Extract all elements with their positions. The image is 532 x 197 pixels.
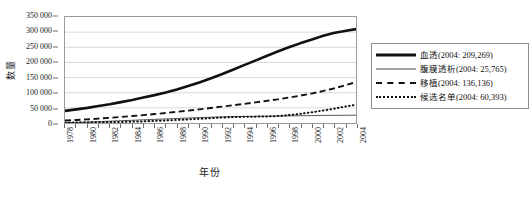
x-tick-mark <box>87 124 88 128</box>
x-tick-mark <box>278 124 279 128</box>
legend-item[interactable]: 血透(2004: 209,269) <box>376 48 523 62</box>
x-tick-label: 1998 <box>292 127 300 143</box>
legend-item-label: 血透(2004: 209,269) <box>420 50 493 60</box>
x-tick-label: 1994 <box>247 127 255 143</box>
x-tick-mark <box>346 124 347 128</box>
x-tick-mark <box>334 124 335 128</box>
series-line <box>65 82 356 120</box>
x-tick-mark <box>143 124 144 128</box>
x-tick-label: 1988 <box>180 127 188 143</box>
y-tick-label: 50 000 <box>30 105 52 113</box>
x-tick-mark <box>357 124 358 128</box>
x-tick-mark <box>267 124 268 128</box>
x-tick-label: 1992 <box>225 127 233 143</box>
x-axis-ticks: 1978198019821984198619881990199219941996… <box>64 124 357 164</box>
x-tick-label: 1982 <box>112 127 120 143</box>
x-axis-title: 年份 <box>0 168 420 178</box>
x-tick-mark <box>98 124 99 128</box>
x-tick-label: 2002 <box>337 127 345 143</box>
series-line <box>65 29 356 111</box>
x-tick-mark <box>323 124 324 128</box>
chart-figure: 数量 350 000300 000250 000200 000150 00010… <box>0 0 532 197</box>
plot-area <box>64 16 357 124</box>
x-tick-label: 1990 <box>202 127 210 143</box>
legend-line-swatch-icon <box>376 78 416 88</box>
legend-item[interactable]: 腹膜透析(2004: 25,765) <box>376 62 523 76</box>
x-tick-mark <box>188 124 189 128</box>
x-tick-mark <box>289 124 290 128</box>
x-tick-label: 1984 <box>135 127 143 143</box>
y-tick-label: 250 000 <box>26 43 52 51</box>
x-tick-label: 1996 <box>270 127 278 143</box>
y-tick-label: 100 000 <box>26 89 52 97</box>
x-tick-mark <box>165 124 166 128</box>
x-tick-mark <box>312 124 313 128</box>
legend-line-swatch-icon <box>376 64 416 74</box>
chart-legend: 血透(2004: 209,269)腹膜透析(2004: 25,765)移植(20… <box>371 43 529 109</box>
y-tick-mark <box>53 16 58 17</box>
legend-line-swatch-icon <box>376 92 416 102</box>
x-tick-mark <box>211 124 212 128</box>
legend-item[interactable]: 候选名单(2004: 60,393) <box>376 90 523 104</box>
legend-item-label: 候选名单(2004: 60,393) <box>420 92 507 102</box>
y-tick-mark <box>53 124 58 125</box>
x-tick-mark <box>244 124 245 128</box>
y-tick-mark <box>53 31 58 32</box>
x-tick-mark <box>75 124 76 128</box>
x-tick-label: 1980 <box>90 127 98 143</box>
legend-item-label: 移植(2004: 136,136) <box>420 78 493 88</box>
x-tick-mark <box>154 124 155 128</box>
y-tick-mark <box>53 77 58 78</box>
x-tick-mark <box>120 124 121 128</box>
y-tick-label: 0 <box>48 120 52 128</box>
x-tick-mark <box>64 124 65 128</box>
x-tick-mark <box>109 124 110 128</box>
y-axis-ticks: 350 000300 000250 000200 000150 000100 0… <box>0 16 58 124</box>
x-tick-mark <box>256 124 257 128</box>
y-tick-mark <box>53 46 58 47</box>
x-tick-label: 1978 <box>67 127 75 143</box>
x-tick-label: 1986 <box>157 127 165 143</box>
y-tick-label: 150 000 <box>26 74 52 82</box>
legend-line-swatch-icon <box>376 50 416 60</box>
y-tick-label: 350 000 <box>26 12 52 20</box>
y-tick-mark <box>53 62 58 63</box>
x-tick-mark <box>222 124 223 128</box>
x-tick-mark <box>177 124 178 128</box>
legend-item[interactable]: 移植(2004: 136,136) <box>376 76 523 90</box>
x-tick-mark <box>199 124 200 128</box>
x-tick-label: 2004 <box>360 127 368 143</box>
y-tick-label: 200 000 <box>26 58 52 66</box>
x-tick-mark <box>132 124 133 128</box>
legend-item-label: 腹膜透析(2004: 25,765) <box>420 64 507 74</box>
x-tick-mark <box>233 124 234 128</box>
series-canvas <box>65 17 356 123</box>
y-tick-label: 300 000 <box>26 27 52 35</box>
x-tick-mark <box>301 124 302 128</box>
x-tick-label: 2000 <box>315 127 323 143</box>
y-tick-mark <box>53 93 58 94</box>
y-tick-mark <box>53 108 58 109</box>
